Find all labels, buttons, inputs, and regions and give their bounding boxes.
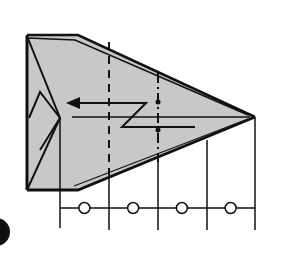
paper-body xyxy=(27,35,255,190)
origami-diagram xyxy=(0,0,282,259)
equal-division-mark xyxy=(79,203,90,214)
equal-division-mark xyxy=(128,203,139,214)
step-marker xyxy=(0,218,10,246)
mountain-fold-dot xyxy=(156,100,161,105)
mountain-fold-dot xyxy=(156,128,161,133)
equal-division-mark xyxy=(225,203,236,214)
equal-division-mark xyxy=(176,203,187,214)
diagram-canvas xyxy=(0,0,282,259)
